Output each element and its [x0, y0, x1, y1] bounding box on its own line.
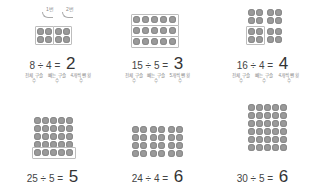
marble-icon [275, 36, 282, 43]
marble-icon [58, 125, 65, 132]
quotient: 3 [174, 54, 183, 73]
equation: 30 ÷ 5 = 6 [210, 167, 315, 185]
marble-icon [158, 134, 165, 141]
marble-icon [140, 150, 147, 157]
marble-icon [50, 125, 57, 132]
marble-icon [132, 150, 139, 157]
marble-icon [248, 17, 255, 24]
arrow-icon [62, 12, 73, 18]
label-subtracted: 빼는 구슬 수 [46, 73, 68, 83]
marble-icon [158, 150, 165, 157]
marble-icon [248, 144, 255, 151]
division-sign: ÷ [41, 173, 47, 184]
marble-icon [272, 112, 279, 119]
arrow-icon [42, 12, 53, 18]
marble-icon [150, 150, 157, 157]
equals-sign: = [57, 173, 63, 184]
marble-icon [176, 134, 183, 141]
label-subtracted: 빼는 구슬 수 [145, 73, 167, 83]
equation: 25 ÷ 5 = 5 [0, 167, 105, 185]
marble-icon [34, 125, 41, 132]
marble-icon [264, 136, 271, 143]
quotient: 5 [69, 167, 78, 185]
marble-icon [42, 133, 49, 140]
dividend: 30 [237, 173, 248, 184]
marble-icon [280, 112, 287, 119]
dividend: 15 [132, 60, 143, 71]
marble-icon [42, 125, 49, 132]
marble-icon [176, 126, 183, 133]
marble-icon [267, 36, 274, 43]
equals-sign: = [267, 60, 273, 71]
dividend: 8 [29, 60, 35, 71]
label-count: 5개씩 뺀 횟수 [169, 73, 191, 83]
group-box [53, 26, 72, 45]
division-panel-25-by-5: 25 ÷ 5 = 5 [0, 95, 105, 185]
dividend: 16 [237, 60, 248, 71]
divisor: 4 [259, 60, 265, 71]
dividend: 25 [27, 173, 38, 184]
marble-icon [272, 120, 279, 127]
marble-icon [272, 136, 279, 143]
marble-icon [150, 134, 157, 141]
marble-icon [256, 136, 263, 143]
division-sign: ÷ [251, 60, 257, 71]
marble-icon [272, 128, 279, 135]
division-panel-30-by-5: 30 ÷ 5 = 6 [210, 90, 315, 185]
marble-icon [256, 17, 263, 24]
marble-icon [248, 112, 255, 119]
marble-icon [280, 144, 287, 151]
marble-icon [256, 104, 263, 111]
marble-icon [66, 117, 73, 124]
equals-sign: = [54, 60, 60, 71]
marble-icon [140, 126, 147, 133]
marble-icon [275, 28, 282, 35]
marble-icon [34, 117, 41, 124]
marble-icon [42, 117, 49, 124]
group-box [131, 36, 179, 48]
marble-icon [280, 128, 287, 135]
divisor: 5 [154, 60, 160, 71]
dividend: 24 [132, 173, 143, 184]
marble-icon [150, 142, 157, 149]
marble-icon [158, 126, 165, 133]
marble-icon [272, 104, 279, 111]
equation: 15 ÷ 5 = 3 [105, 54, 210, 74]
label-total: 전체 구슬 수 [230, 73, 252, 83]
group-box [246, 26, 265, 45]
marble-icon [248, 104, 255, 111]
group-tag-2: 2번 [66, 5, 74, 12]
equals-sign: = [162, 60, 168, 71]
marble-icon [140, 142, 147, 149]
division-sign: ÷ [146, 173, 152, 184]
division-sign: ÷ [251, 173, 257, 184]
equals-sign: = [162, 173, 168, 184]
marble-icon [248, 120, 255, 127]
division-panel-8-by-4: 1번 2번 8 ÷ 4 = 2 전체 구슬 수 빼는 구슬 수 4개씩 뺀 횟수 [0, 0, 105, 90]
marble-icon [132, 126, 139, 133]
marble-icon [58, 133, 65, 140]
marble-icon [34, 133, 41, 140]
marble-icon [176, 142, 183, 149]
quotient: 6 [174, 167, 183, 185]
label-count: 4개씩 뺀 횟수 [278, 73, 300, 83]
marble-icon [58, 117, 65, 124]
equals-sign: = [267, 173, 273, 184]
marble-icon [140, 134, 147, 141]
marble-icon [256, 120, 263, 127]
marble-icon [50, 133, 57, 140]
division-panel-15-by-5: 15 ÷ 5 = 3 전체 구슬 수 빼는 구슬 수 5개씩 뺀 횟수 [105, 0, 210, 90]
equation: 8 ÷ 4 = 2 [0, 54, 105, 74]
marble-icon [267, 9, 274, 16]
marble-icon [275, 9, 282, 16]
marble-icon [168, 142, 175, 149]
marble-icon [264, 144, 271, 151]
division-sign: ÷ [146, 60, 152, 71]
divisor: 5 [49, 173, 55, 184]
group-box [32, 147, 76, 159]
divisor: 4 [154, 173, 160, 184]
marble-icon [264, 104, 271, 111]
division-sign: ÷ [38, 60, 44, 71]
marble-icon [264, 120, 271, 127]
marble-icon [256, 144, 263, 151]
